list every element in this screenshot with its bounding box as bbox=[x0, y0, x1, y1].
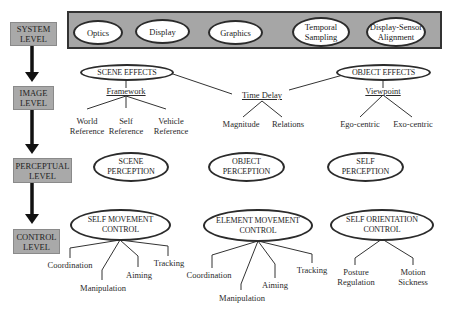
label-self-reference: SelfReference bbox=[104, 116, 148, 136]
node-label: SELF MOVEMENT bbox=[88, 215, 154, 224]
node-label: Temporal bbox=[305, 22, 337, 32]
label-framework: Framework bbox=[104, 86, 148, 96]
level-box-perceptual: PERCEPTUALLEVEL bbox=[13, 158, 72, 183]
node-label: CONTROL bbox=[239, 226, 276, 235]
leaf-text: Regulation bbox=[337, 277, 374, 287]
leaf-posture-regulation: PostureRegulation bbox=[333, 267, 379, 287]
node-label: ELEMENT MOVEMENT bbox=[216, 216, 300, 225]
leaf-text: Reference bbox=[70, 126, 104, 136]
level-label: IMAGE bbox=[20, 88, 48, 98]
leaf-tracking: Tracking bbox=[152, 258, 186, 268]
node-scene-perception: SCENEPERCEPTION bbox=[93, 152, 169, 182]
level-arrows bbox=[25, 45, 39, 224]
label-vehicle-reference: VehicleReference bbox=[149, 116, 193, 136]
level-label: LEVEL bbox=[20, 34, 47, 44]
node-label: PERCEPTION bbox=[342, 167, 389, 176]
node-label: Graphics bbox=[220, 28, 251, 38]
node-label: SCENE EFFECTS bbox=[97, 68, 156, 78]
leaf-text: Posture bbox=[343, 267, 369, 277]
node-self-perception: SELFPERCEPTION bbox=[327, 152, 404, 182]
node-label: SELF bbox=[356, 157, 374, 166]
node-label: CONTROL bbox=[363, 225, 400, 234]
label-relations: Relations bbox=[268, 119, 308, 129]
level-box-image: IMAGELEVEL bbox=[13, 86, 54, 110]
leaf-coordination: Coordination bbox=[45, 260, 95, 270]
leaf-motion-sickness: MotionSickness bbox=[392, 267, 434, 287]
node-graphics: Graphics bbox=[208, 20, 263, 45]
node-label: Optics bbox=[87, 28, 109, 38]
node-label: SELF ORIENTATION bbox=[346, 215, 418, 224]
label-viewpoint: Viewpoint bbox=[361, 86, 405, 96]
leaf-text: World bbox=[76, 116, 97, 126]
node-label: Display bbox=[149, 27, 175, 37]
level-label: LEVEL bbox=[20, 98, 47, 108]
node-object-perception: OBJECTPERCEPTION bbox=[208, 152, 285, 182]
node-label: PERCEPTION bbox=[107, 167, 154, 176]
leaf-text: Reference bbox=[109, 126, 143, 136]
leaf-text: Reference bbox=[154, 126, 188, 136]
node-self-movement-control: SELF MOVEMENTCONTROL bbox=[70, 209, 171, 241]
level-label: CONTROL bbox=[16, 232, 56, 242]
node-label: Display-Sensor bbox=[370, 22, 422, 32]
node-element-movement-control: ELEMENT MOVEMENTCONTROL bbox=[203, 209, 313, 242]
node-self-orientation-control: SELF ORIENTATIONCONTROL bbox=[330, 209, 434, 241]
leaf-coordination: Coordination bbox=[184, 270, 234, 280]
node-object-effects: OBJECT EFFECTS bbox=[336, 64, 431, 81]
level-label: LEVEL bbox=[23, 242, 50, 252]
leaf-manipulation: Manipulation bbox=[78, 283, 128, 293]
node-display: Display bbox=[135, 19, 190, 44]
label-exo-centric: Exo-centric bbox=[388, 119, 438, 129]
node-display-sensor-alignment: Display-SensorAlignment bbox=[366, 17, 426, 47]
node-label: OBJECT bbox=[232, 157, 261, 166]
node-scene-effects: SCENE EFFECTS bbox=[80, 64, 174, 81]
leaf-aiming: Aiming bbox=[260, 280, 290, 290]
leaf-aiming: Aiming bbox=[124, 270, 154, 280]
leaf-text: Sickness bbox=[398, 277, 428, 287]
node-label: CONTROL bbox=[102, 225, 139, 234]
node-label: SCENE bbox=[119, 157, 144, 166]
label-magnitude: Magnitude bbox=[218, 119, 264, 129]
leaf-text: Motion bbox=[400, 267, 425, 277]
label-time-delay: Time Delay bbox=[236, 90, 288, 100]
node-label: Alignment bbox=[378, 32, 414, 42]
level-box-control: CONTROLLEVEL bbox=[13, 229, 60, 254]
leaf-text: Vehicle bbox=[158, 116, 184, 126]
node-optics: Optics bbox=[73, 20, 123, 45]
level-label: PERCEPTUAL bbox=[16, 161, 70, 171]
level-box-system: SYSTEMLEVEL bbox=[10, 22, 57, 46]
level-label: LEVEL bbox=[29, 171, 56, 181]
label-world-reference: WorldReference bbox=[65, 116, 109, 136]
node-label: PERCEPTION bbox=[223, 167, 270, 176]
leaf-tracking: Tracking bbox=[295, 265, 329, 275]
node-label: OBJECT EFFECTS bbox=[352, 68, 415, 78]
level-label: SYSTEM bbox=[17, 24, 51, 34]
leaf-manipulation: Manipulation bbox=[217, 293, 267, 303]
node-temporal-sampling: TemporalSampling bbox=[292, 17, 350, 47]
leaf-text: Self bbox=[119, 116, 133, 126]
label-ego-centric: Ego-centric bbox=[335, 119, 385, 129]
node-label: Sampling bbox=[305, 32, 338, 42]
